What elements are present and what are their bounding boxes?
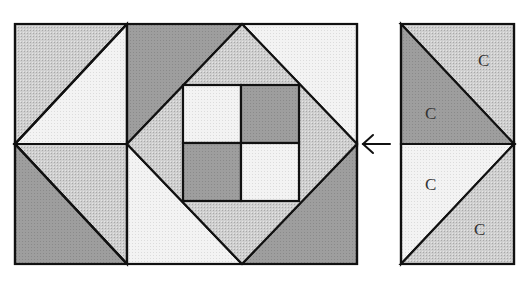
four-patch-top-right — [241, 85, 299, 143]
four-patch-bottom-right — [241, 143, 299, 201]
side-unit — [401, 24, 514, 264]
main-block — [15, 24, 357, 264]
label-c-bottom-left: C — [425, 175, 436, 194]
quilt-diagram: C C C C — [0, 0, 530, 286]
four-patch-top-left — [183, 85, 241, 143]
arrow-left-icon — [363, 135, 390, 153]
label-c-top-left: C — [425, 104, 436, 123]
label-c-top-right: C — [478, 51, 489, 70]
four-patch-bottom-left — [183, 143, 241, 201]
label-c-bottom-right: C — [474, 220, 485, 239]
